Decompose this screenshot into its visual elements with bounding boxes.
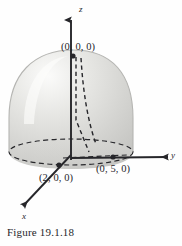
diagram-canvas bbox=[0, 0, 182, 246]
figure-caption: Figure 19.1.18 bbox=[7, 226, 74, 238]
label-x-axis: x bbox=[22, 212, 26, 221]
label-y-intercept-point: (0, 5, 0) bbox=[96, 164, 130, 175]
point-y-intercept-dot bbox=[110, 154, 115, 159]
point-apex-dot bbox=[70, 53, 75, 58]
label-y-axis: y bbox=[171, 151, 175, 160]
label-x-intercept-point: (2, 0, 0) bbox=[39, 173, 73, 184]
figure-container: (0, 0, 0) (0, 5, 0) (2, 0, 0) z y x Figu… bbox=[0, 0, 182, 246]
point-x-intercept-dot bbox=[56, 162, 61, 167]
label-z-axis: z bbox=[79, 5, 83, 14]
y-axis-line bbox=[71, 157, 168, 158]
label-apex-point: (0, 0, 0) bbox=[61, 42, 95, 53]
